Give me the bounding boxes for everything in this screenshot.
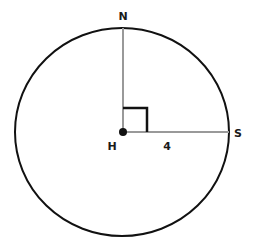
label-h: H (107, 140, 116, 153)
right-angle-marker (123, 108, 147, 132)
label-n: N (118, 10, 127, 23)
segment-length-label: 4 (163, 140, 171, 153)
circle-diagram: N S H 4 (0, 0, 256, 250)
center-point-dot (119, 128, 127, 136)
label-s: S (234, 127, 242, 140)
